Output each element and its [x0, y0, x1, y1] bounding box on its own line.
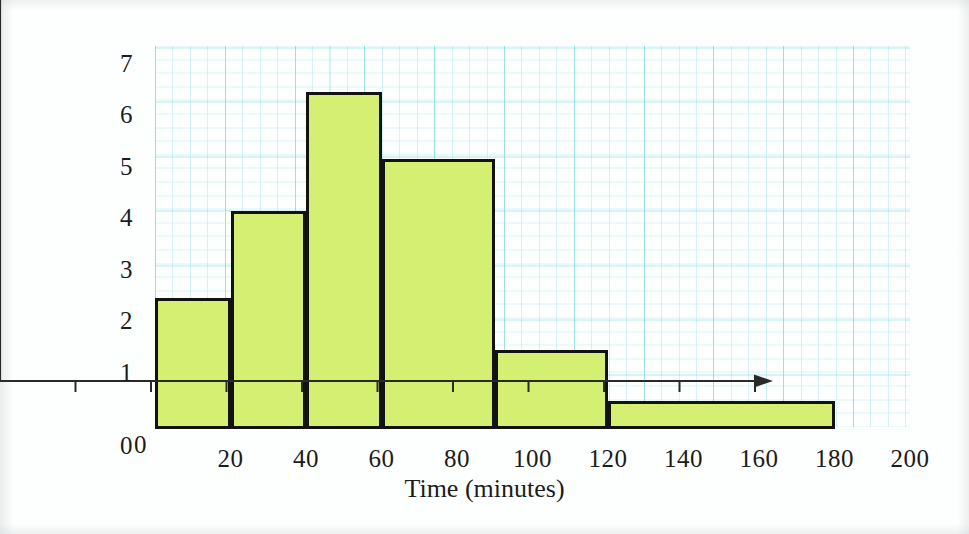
x-tick-label: 60 — [352, 445, 412, 473]
x-tick-label: 200 — [880, 445, 940, 473]
x-tick-label: 140 — [654, 445, 714, 473]
x-tick-label: 120 — [578, 445, 638, 473]
y-tick-label: 3 — [107, 256, 133, 284]
y-tick-label: 6 — [107, 101, 133, 129]
y-tick-label: 5 — [107, 153, 133, 181]
y-tick-label: 7 — [107, 50, 133, 78]
x-tick-label: 80 — [427, 445, 487, 473]
x-axis-arrowhead — [754, 375, 773, 388]
x-tick-label: 180 — [805, 445, 865, 473]
histogram-chart: 02040608010012014016018020001234567 Time… — [0, 0, 969, 534]
y-tick-label: 1 — [107, 359, 133, 387]
y-tick-label: 4 — [107, 204, 133, 232]
x-axis-title: Time (minutes) — [0, 474, 969, 504]
y-tick-label: 0 — [107, 432, 133, 460]
y-tick-label: 2 — [107, 307, 133, 335]
x-tick-label: 100 — [503, 445, 563, 473]
x-tick-label: 20 — [201, 445, 261, 473]
x-tick-label: 160 — [729, 445, 789, 473]
x-tick-label: 40 — [276, 445, 336, 473]
